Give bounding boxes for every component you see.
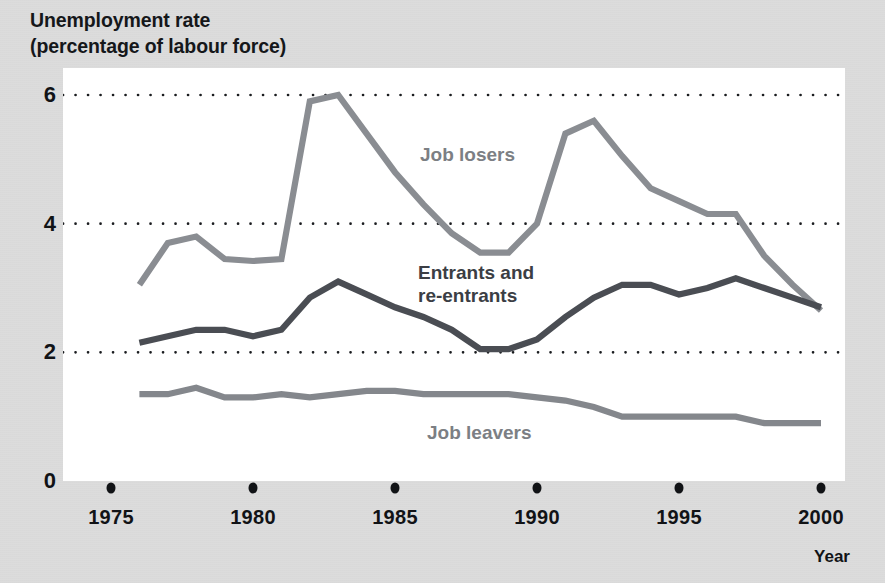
x-axis-tick-dot (817, 483, 826, 494)
series-label-entrants: Entrants and re-entrants (418, 262, 534, 308)
gridlines (63, 95, 845, 352)
x-axis-tick-label: 1990 (514, 506, 560, 529)
x-axis-tick-dot (675, 483, 684, 494)
x-axis-tick-label: 1975 (88, 506, 134, 529)
y-axis-tick-label: 0 (22, 468, 56, 494)
x-axis-tick-label: 2000 (798, 506, 844, 529)
unemployment-rate-chart: Unemployment rate (percentage of labour … (0, 0, 885, 583)
y-axis-tick-label: 6 (22, 82, 56, 108)
y-axis-tick-label: 4 (22, 211, 56, 237)
y-axis-tick-label: 2 (22, 339, 56, 365)
series-label-job-leavers: Job leavers (427, 422, 532, 445)
series-label-job-losers: Job losers (420, 144, 515, 167)
x-axis-tick-dot (391, 483, 400, 494)
x-axis-tick-dot (249, 483, 258, 494)
x-axis-tick-label: 1995 (656, 506, 702, 529)
x-axis-tick-dot (533, 483, 542, 494)
series-line-job-leavers (139, 388, 821, 423)
x-axis-tick-dot (107, 483, 116, 494)
x-axis-tick-label: 1980 (230, 506, 276, 529)
x-axis-tick-label: 1985 (372, 506, 418, 529)
x-axis-title: Year (814, 547, 850, 567)
chart-title: Unemployment rate (percentage of labour … (30, 8, 286, 60)
